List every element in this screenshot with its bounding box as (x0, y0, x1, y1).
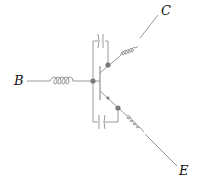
emitter-wire (100, 91, 127, 116)
base-node (90, 78, 95, 83)
capacitor-top-plate-1 (98, 34, 99, 48)
emitter-node (115, 105, 120, 110)
collector-node (105, 62, 110, 67)
capacitor-bottom-plate-2 (104, 115, 105, 129)
base-inductor-icon (50, 77, 76, 84)
collector-wire-2 (140, 15, 158, 38)
terminal-label-collector: C (161, 4, 171, 17)
emitter-inductor-icon (127, 116, 144, 132)
collector-wire (100, 55, 121, 73)
collector-inductor-icon (121, 46, 138, 55)
circuit-diagram (0, 0, 197, 183)
terminal-label-base: B (14, 74, 24, 87)
emitter-wire-2 (145, 134, 177, 166)
emitter-arrow-icon (107, 97, 110, 100)
terminal-label-emitter: E (179, 164, 189, 177)
